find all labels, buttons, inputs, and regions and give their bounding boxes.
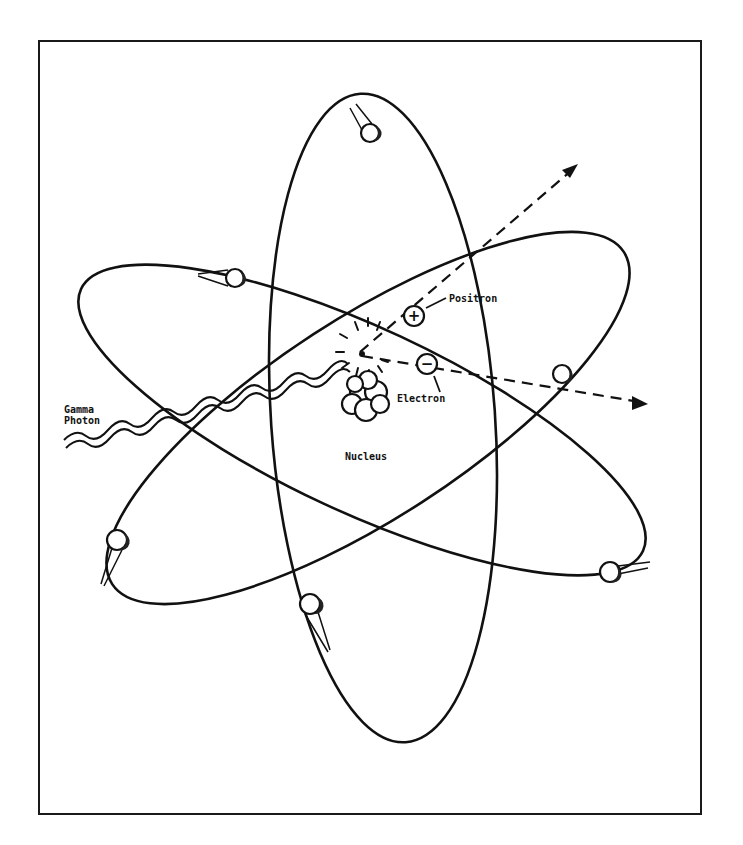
gamma-label-line2: Photon bbox=[64, 415, 100, 426]
orbit-vertical bbox=[249, 86, 518, 750]
positron-sign: + bbox=[408, 307, 421, 325]
orbiting-electron-5 bbox=[600, 562, 650, 583]
gamma-label-line1: Gamma bbox=[64, 404, 94, 415]
gamma-photon-wave bbox=[64, 361, 350, 448]
nucleus-label: Nucleus bbox=[345, 451, 387, 462]
atom-diagram: + Positron − Electron Nucleus Gamma Phot… bbox=[0, 0, 743, 845]
nucleus-icon bbox=[342, 371, 389, 421]
particle-tracks bbox=[360, 164, 648, 410]
orbiting-electron-3 bbox=[553, 365, 573, 383]
electron-sign: − bbox=[421, 355, 434, 373]
positron-track bbox=[360, 170, 572, 352]
orbiting-electron-4 bbox=[101, 530, 130, 586]
electron-arrowhead-icon bbox=[632, 396, 648, 410]
orbiting-electron-1 bbox=[350, 104, 382, 142]
positron-label: Positron bbox=[449, 293, 497, 304]
electron-label: Electron bbox=[397, 393, 445, 404]
electron-produced: − Electron bbox=[397, 354, 445, 404]
positron-arrowhead-icon bbox=[562, 164, 578, 178]
